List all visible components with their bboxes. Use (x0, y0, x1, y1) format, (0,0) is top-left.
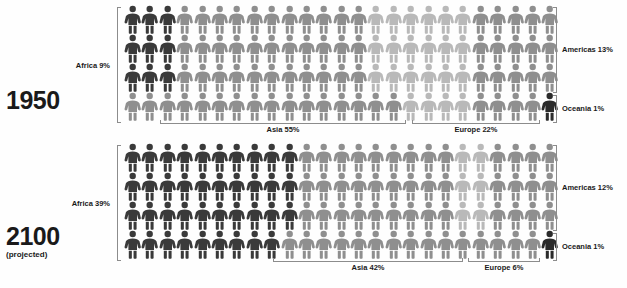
person-icon-africa (211, 172, 228, 201)
person-icon-africa (124, 5, 141, 34)
person-icon-africa (124, 172, 141, 201)
person-icon-asia (281, 92, 298, 121)
person-icon-asia (176, 34, 193, 63)
person-icon-europe (367, 63, 384, 92)
person-icon-asia (176, 63, 193, 92)
person-icon-americas (489, 143, 506, 172)
person-icon-asia (489, 230, 506, 259)
label-oceania-2100: Oceania 1% (562, 243, 604, 251)
person-icon-africa (194, 143, 211, 172)
person-icon-americas (524, 63, 541, 92)
person-icon-asia (333, 5, 350, 34)
person-icon-asia (246, 34, 263, 63)
bracket-europe-1950 (412, 120, 540, 124)
person-icon-europe (385, 5, 402, 34)
person-icon-asia (315, 92, 332, 121)
person-icon-asia (333, 230, 350, 259)
person-icon-europe (472, 201, 489, 230)
person-icon-asia (176, 5, 193, 34)
person-icon-asia (507, 230, 524, 259)
person-icon-europe (402, 63, 419, 92)
year-label-2100: 2100 (6, 224, 102, 249)
person-icon-asia (333, 92, 350, 121)
bracket-oceania-1950 (553, 95, 557, 123)
person-icon-africa (228, 201, 245, 230)
person-icon-africa (263, 230, 280, 259)
person-icon-africa (263, 143, 280, 172)
person-icon-africa (194, 172, 211, 201)
person-icon-asia (194, 92, 211, 121)
person-icon-asia (263, 34, 280, 63)
person-icon-europe (402, 5, 419, 34)
person-icon-europe (437, 63, 454, 92)
person-icon-africa (263, 201, 280, 230)
person-icon-asia (315, 5, 332, 34)
person-icon-asia (315, 34, 332, 63)
person-icon-europe (454, 63, 471, 92)
person-icon-asia (298, 34, 315, 63)
person-icon-asia (194, 34, 211, 63)
bracket-europe-2100 (468, 258, 540, 262)
person-icon-africa (124, 230, 141, 259)
person-icon-asia (211, 63, 228, 92)
person-icon-asia (402, 201, 419, 230)
person-icon-europe (437, 5, 454, 34)
pictogram-grid-2100 (124, 143, 559, 259)
person-icon-asia (228, 92, 245, 121)
person-icon-africa (211, 230, 228, 259)
bracket-americas-2100 (553, 145, 557, 231)
label-asia-2100: Asia 42% (273, 264, 463, 272)
person-icon-asia (176, 92, 193, 121)
person-icon-europe (454, 201, 471, 230)
label-africa-1950: Africa 9% (46, 62, 110, 70)
person-icon-africa (246, 201, 263, 230)
person-icon-europe (454, 92, 471, 121)
person-icon-europe (420, 5, 437, 34)
person-icon-asia (489, 92, 506, 121)
person-icon-asia (437, 230, 454, 259)
person-icon-africa (141, 34, 158, 63)
person-icon-asia (420, 201, 437, 230)
person-icon-asia (263, 63, 280, 92)
label-europe-2100: Europe 6% (468, 264, 540, 272)
person-icon-europe (472, 143, 489, 172)
person-icon-asia (315, 63, 332, 92)
year-block-2100: 2100 (projected) (6, 224, 102, 259)
person-icon-americas (507, 63, 524, 92)
person-icon-africa (211, 201, 228, 230)
person-icon-americas (524, 172, 541, 201)
panel-1950: 1950 Africa 9% Americas 13% Oceania 1% A… (0, 0, 627, 140)
person-icon-asia (315, 230, 332, 259)
person-icon-asia (298, 143, 315, 172)
person-icon-asia (524, 230, 541, 259)
person-icon-asia (315, 172, 332, 201)
person-icon-europe (402, 92, 419, 121)
person-icon-africa (281, 143, 298, 172)
year-block-1950: 1950 (6, 88, 102, 115)
person-icon-asia (141, 92, 158, 121)
person-icon-europe (385, 63, 402, 92)
person-icon-europe (367, 5, 384, 34)
year-sublabel-2100: (projected) (6, 251, 102, 259)
person-icon-asia (263, 5, 280, 34)
person-icon-europe (454, 172, 471, 201)
person-icon-asia (524, 92, 541, 121)
person-icon-asia (333, 172, 350, 201)
person-icon-americas (489, 172, 506, 201)
person-icon-americas (489, 201, 506, 230)
person-icon-africa (159, 201, 176, 230)
person-icon-asia (281, 63, 298, 92)
person-icon-asia (211, 92, 228, 121)
person-icon-africa (176, 172, 193, 201)
bracket-africa-1950 (117, 7, 121, 123)
person-icon-asia (402, 143, 419, 172)
person-icon-africa (141, 5, 158, 34)
infographic-root: 1950 Africa 9% Americas 13% Oceania 1% A… (0, 0, 627, 288)
label-asia-1950: Asia 55% (160, 126, 406, 134)
person-icon-europe (420, 63, 437, 92)
person-icon-africa (159, 230, 176, 259)
person-icon-asia (298, 172, 315, 201)
person-icon-americas (524, 201, 541, 230)
person-icon-africa (159, 172, 176, 201)
person-icon-asia (211, 5, 228, 34)
